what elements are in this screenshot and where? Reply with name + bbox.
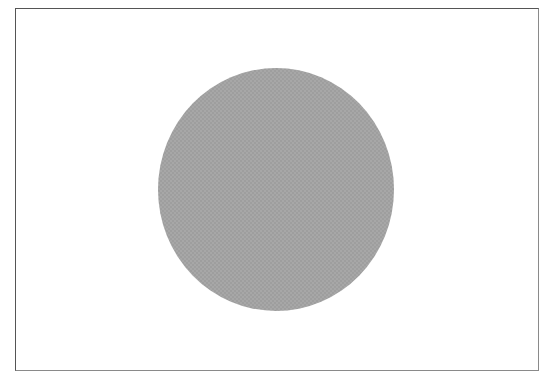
gray-circle xyxy=(158,68,394,311)
